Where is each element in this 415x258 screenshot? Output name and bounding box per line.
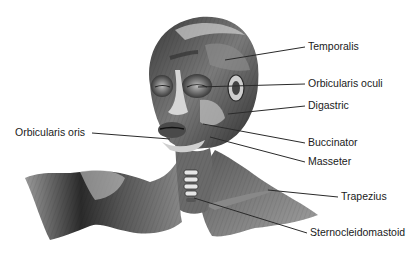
- left-shoulder-muscles: [25, 160, 185, 240]
- leader-line-orbicularis-oris: [92, 133, 170, 139]
- label-masseter: Masseter: [308, 156, 351, 167]
- label-buccinator: Buccinator: [308, 137, 358, 148]
- label-temporalis: Temporalis: [308, 41, 359, 52]
- label-orbicularis-oris: Orbicularis oris: [15, 127, 85, 138]
- label-trapezius: Trapezius: [341, 191, 387, 202]
- label-digastric: Digastric: [308, 100, 349, 111]
- label-orbicularis-oculi: Orbicularis oculi: [308, 78, 383, 89]
- label-sternocleidomastoid: Sternocleidomastoid: [310, 227, 405, 238]
- head: [149, 17, 258, 153]
